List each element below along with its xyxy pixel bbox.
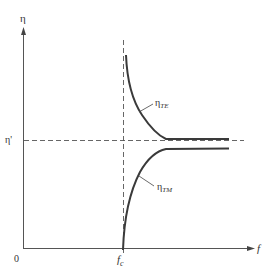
y-axis-arrow-icon [21,27,26,35]
tm-leader-line [139,176,154,186]
wave-impedance-diagram: η f 0 η' fc ηTE ηTM [0,0,276,280]
asymptote-label: η' [5,134,12,145]
origin-label: 0 [14,253,19,264]
cutoff-label: fc [117,253,124,268]
x-axis-label: f [257,242,262,254]
eta-tm-label: ηTM [157,181,173,194]
eta-te-curve [126,55,229,139]
eta-te-label: ηTE [155,97,169,110]
y-axis-label: η [20,12,26,24]
x-axis-arrow-icon [247,246,255,251]
te-leader-line [139,104,153,112]
eta-tm-curve [123,149,229,251]
